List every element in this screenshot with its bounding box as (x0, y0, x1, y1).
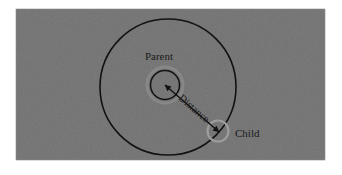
diagram-figure: Parent Distance Child (0, 0, 342, 175)
diagram-panel (16, 9, 325, 160)
panel-noise-overlay (16, 9, 325, 160)
child-label: Child (235, 127, 260, 139)
diagram-canvas: Parent Distance Child (0, 0, 342, 175)
parent-label: Parent (145, 50, 173, 62)
